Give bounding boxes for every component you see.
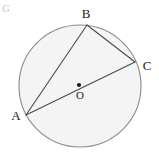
center-point-dot: [77, 83, 81, 87]
geometry-canvas: G O A B C: [0, 0, 159, 155]
point-label-c: C: [143, 58, 152, 73]
corner-artifact-glyph: G: [2, 2, 10, 14]
point-label-o: O: [76, 89, 84, 101]
geometry-figure: G O A B C: [0, 0, 159, 155]
point-label-a: A: [11, 108, 21, 123]
point-label-b: B: [82, 6, 91, 21]
